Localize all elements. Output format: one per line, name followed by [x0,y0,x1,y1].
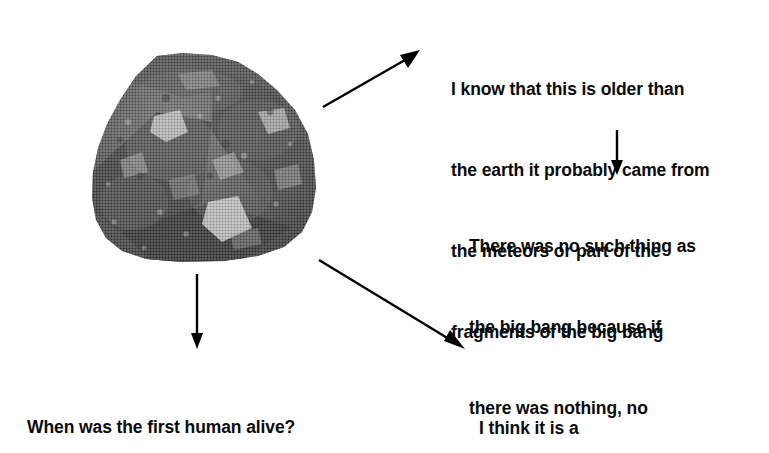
rock-specimen-image [62,52,324,270]
arrow-down-right [316,256,472,356]
annotation-first-human: When was the first human alive? . . . Ma… [27,360,304,453]
annotation-line: I know that this is older than [451,76,710,103]
arrow-up-right [320,44,425,114]
rock-body [62,52,324,270]
arrow-down [189,274,205,350]
annotation-line: the big bang because if [469,314,697,341]
page-canvas: I know that this is older than the earth… [0,0,769,453]
annotation-line: When was the first human alive? [27,414,304,441]
annotation-meteorite-older: I think it is a meteorite that is older … [479,361,660,453]
annotation-line: There was no such thing as [469,233,697,260]
annotation-line: I think it is a [479,415,660,442]
